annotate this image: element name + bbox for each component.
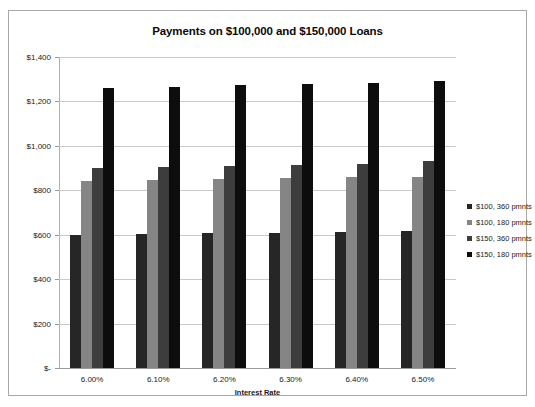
- chart-title: Payments on $100,000 and $150,000 Loans: [9, 25, 526, 37]
- chart-frame: Payments on $100,000 and $150,000 Loans …: [8, 10, 527, 396]
- bar: [70, 235, 81, 368]
- y-axis-label: $200: [33, 319, 51, 328]
- y-axis-label: $-: [44, 364, 51, 373]
- bar: [235, 85, 246, 368]
- bar: [368, 83, 379, 368]
- bar-group: 6.50%: [390, 57, 456, 368]
- y-axis-label: $1,000: [27, 141, 51, 150]
- legend-label: $100, 180 pmnts: [476, 218, 532, 227]
- x-axis-label: 6.20%: [213, 375, 236, 384]
- bar: [269, 233, 280, 369]
- bar: [147, 180, 158, 368]
- bar: [401, 231, 412, 368]
- bar: [158, 167, 169, 368]
- x-axis-label: 6.40%: [345, 375, 368, 384]
- bar: [357, 164, 368, 368]
- bar: [169, 87, 180, 368]
- y-axis-label: $600: [33, 230, 51, 239]
- gridline: [59, 368, 456, 369]
- bar-group: 6.30%: [258, 57, 324, 368]
- bar-group: 6.20%: [191, 57, 257, 368]
- bar: [346, 177, 357, 368]
- legend-label: $150, 180 pmnts: [476, 250, 532, 259]
- bar: [92, 168, 103, 368]
- legend-item: $100, 180 pmnts: [467, 218, 532, 227]
- x-axis-label: 6.50%: [412, 375, 435, 384]
- bar: [423, 161, 434, 368]
- bar: [202, 233, 213, 368]
- bar: [291, 165, 302, 368]
- bar: [335, 232, 346, 368]
- y-axis-tick: [55, 368, 59, 369]
- chart-legend: $100, 360 pmnts$100, 180 pmnts$150, 360 …: [467, 202, 532, 259]
- legend-item: $100, 360 pmnts: [467, 202, 532, 211]
- bar-groups: 6.00%6.10%6.20%6.30%6.40%6.50%: [59, 57, 456, 368]
- bar: [213, 179, 224, 368]
- bar: [81, 181, 92, 368]
- bar: [412, 177, 423, 368]
- bar: [136, 234, 147, 368]
- legend-swatch-icon: [467, 236, 472, 241]
- legend-item: $150, 180 pmnts: [467, 250, 532, 259]
- y-axis-label: $1,400: [27, 53, 51, 62]
- bar: [103, 88, 114, 368]
- y-axis-label: $1,200: [27, 97, 51, 106]
- x-axis-label: 6.30%: [279, 375, 302, 384]
- y-axis-label: $800: [33, 186, 51, 195]
- y-axis-label: $400: [33, 275, 51, 284]
- legend-swatch-icon: [467, 220, 472, 225]
- x-axis-label: 6.10%: [147, 375, 170, 384]
- legend-swatch-icon: [467, 204, 472, 209]
- legend-label: $100, 360 pmnts: [476, 202, 532, 211]
- x-axis-label: 6.00%: [81, 375, 104, 384]
- bar: [302, 84, 313, 368]
- bar-group: 6.10%: [125, 57, 191, 368]
- bar-group: 6.00%: [59, 57, 125, 368]
- bar: [280, 178, 291, 368]
- plot-wrapper: $-$200$400$600$800$1,000$1,200$1,400 6.0…: [59, 57, 456, 368]
- bar-group: 6.40%: [324, 57, 390, 368]
- legend-item: $150, 360 pmnts: [467, 234, 532, 243]
- legend-label: $150, 360 pmnts: [476, 234, 532, 243]
- legend-swatch-icon: [467, 252, 472, 257]
- bar: [434, 81, 445, 368]
- x-axis-title: Interest Rate: [59, 388, 456, 397]
- bar: [224, 166, 235, 368]
